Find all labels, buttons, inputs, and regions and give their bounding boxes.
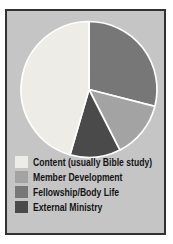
legend-label: Member Development	[33, 171, 122, 183]
legend-label: Fellowship/Body Life	[33, 186, 119, 198]
legend-item-member-development: Member Development	[15, 169, 162, 184]
chart-card: Content (usually Bible study) Member Dev…	[5, 9, 166, 235]
legend-swatch	[15, 201, 28, 213]
legend-swatch	[15, 171, 28, 183]
chart-legend: Content (usually Bible study) Member Dev…	[15, 154, 162, 214]
legend-item-fellowship-body-life: Fellowship/Body Life	[15, 184, 162, 199]
legend-item-external-ministry: External Ministry	[15, 199, 162, 214]
legend-item-content: Content (usually Bible study)	[15, 154, 162, 169]
pie-chart	[7, 11, 164, 163]
legend-swatch	[15, 186, 28, 198]
page: Content (usually Bible study) Member Dev…	[0, 0, 173, 244]
legend-label: External Ministry	[33, 201, 102, 213]
legend-label: Content (usually Bible study)	[33, 156, 152, 168]
legend-swatch	[15, 156, 28, 168]
